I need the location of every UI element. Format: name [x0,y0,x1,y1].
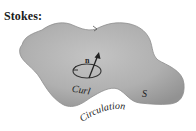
surface-s [20,23,185,107]
stokes-theorem-figure: Stokes: n Curl S Circulation [0,0,196,131]
surface-label: S [142,88,147,99]
surface-diagram: n Curl S Circulation [0,0,196,131]
circulation-label-text: Circulation [77,100,125,124]
circulation-label: Circulation [77,100,125,124]
normal-label: n [85,56,90,65]
